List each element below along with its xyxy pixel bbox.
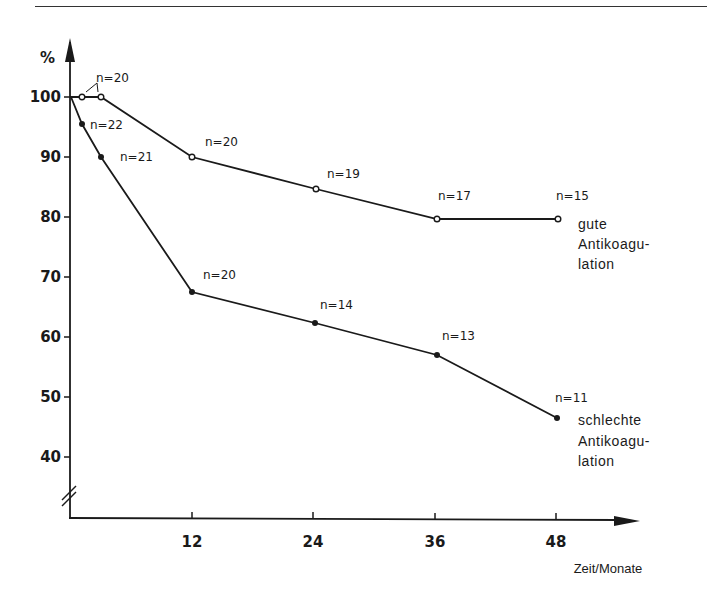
legend-schlechte-line2: Antikoagu- bbox=[578, 433, 650, 449]
filled-circle-marker bbox=[312, 320, 318, 326]
n-label: n=13 bbox=[442, 329, 475, 343]
n-label: n=20 bbox=[203, 268, 236, 282]
x-axis-title: Zeit/Monate bbox=[574, 561, 643, 576]
open-circle-marker bbox=[434, 216, 440, 222]
n-label: n=21 bbox=[120, 150, 153, 164]
x-tick-12: 12 bbox=[182, 533, 203, 551]
filled-circle-marker bbox=[79, 121, 85, 127]
y-axis: % 100 90 80 70 60 50 40 bbox=[30, 38, 76, 518]
legend-schlechte-line3: lation bbox=[578, 453, 614, 469]
n-label: n=15 bbox=[556, 189, 589, 203]
y-tick-90: 90 bbox=[40, 148, 61, 166]
y-tick-40: 40 bbox=[40, 448, 61, 466]
y-axis-arrow-icon bbox=[65, 38, 75, 62]
open-circle-marker bbox=[79, 94, 85, 100]
legend-gute-line3: lation bbox=[578, 256, 614, 272]
filled-circle-marker bbox=[189, 289, 195, 295]
open-circle-marker bbox=[313, 186, 319, 192]
filled-circle-marker bbox=[98, 154, 104, 160]
y-tick-100: 100 bbox=[30, 88, 61, 106]
n-label: n=19 bbox=[327, 167, 360, 181]
x-tick-36: 36 bbox=[425, 533, 446, 551]
x-axis: 12 24 36 48 Zeit/Monate bbox=[69, 512, 642, 576]
n-label: n=11 bbox=[555, 391, 588, 405]
series-gute-antikoagulation: n=20 n=20 n=19 n=17 n=15 gute Antikoagu-… bbox=[70, 71, 650, 272]
filled-circle-marker bbox=[434, 352, 440, 358]
y-tick-70: 70 bbox=[40, 268, 61, 286]
legend-gute-line2: Antikoagu- bbox=[578, 236, 650, 252]
n-label: n=20 bbox=[205, 135, 238, 149]
filled-circle-marker bbox=[554, 415, 560, 421]
axis-break-icon bbox=[62, 486, 76, 500]
legend-gute-line1: gute bbox=[578, 216, 607, 232]
series-schlechte-antikoagulation: n=22 n=21 n=20 n=14 n=13 n=11 schlechte … bbox=[71, 97, 650, 469]
n-label: n=17 bbox=[438, 189, 471, 203]
open-circle-marker bbox=[189, 154, 195, 160]
survival-chart: % 100 90 80 70 60 50 40 12 24 36 48 Zeit… bbox=[0, 0, 707, 598]
legend-schlechte-line1: schlechte bbox=[578, 412, 642, 428]
open-circle-marker bbox=[555, 216, 561, 222]
x-axis-arrow-icon bbox=[614, 516, 640, 526]
x-tick-24: 24 bbox=[303, 533, 324, 551]
open-circle-marker bbox=[98, 94, 104, 100]
y-tick-60: 60 bbox=[40, 328, 61, 346]
y-unit-label: % bbox=[40, 49, 55, 67]
n-label: n=14 bbox=[320, 298, 353, 312]
x-tick-48: 48 bbox=[546, 533, 567, 551]
y-tick-80: 80 bbox=[40, 208, 61, 226]
y-tick-50: 50 bbox=[40, 388, 61, 406]
n-label: n=22 bbox=[90, 118, 123, 132]
n-label: n=20 bbox=[96, 71, 129, 85]
